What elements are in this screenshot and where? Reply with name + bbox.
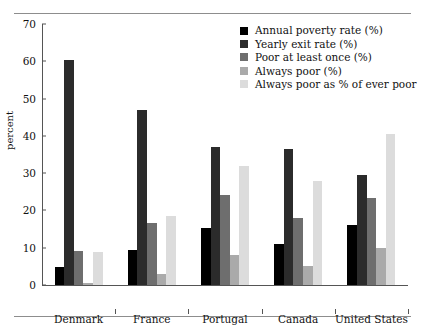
x-tick-label-canada: Canada — [278, 313, 318, 325]
y-tick-label-70: 70 — [2, 19, 42, 30]
bar — [293, 218, 303, 285]
x-tick-label-portugal: Portugal — [202, 313, 247, 325]
bar — [137, 110, 147, 285]
bar — [147, 223, 157, 285]
x-tick-label-denmark: Denmark — [54, 313, 103, 325]
bar — [284, 149, 294, 285]
bar — [74, 251, 84, 285]
bar — [376, 248, 386, 285]
bar — [313, 181, 323, 285]
legend-label: Always poor as % of ever poor — [255, 79, 417, 90]
bar — [157, 274, 167, 285]
x-axis-line — [42, 285, 408, 286]
legend-swatch-icon — [240, 80, 248, 88]
y-tick-label-30: 30 — [2, 168, 42, 179]
bar-group-france — [115, 24, 188, 285]
y-tick-label-10: 10 — [2, 242, 42, 253]
x-tick-mark-1 — [115, 309, 116, 314]
y-tick-label-40: 40 — [2, 131, 42, 142]
bar — [166, 216, 176, 285]
bar — [357, 175, 367, 285]
y-tick-label-20: 20 — [2, 205, 42, 216]
bar — [128, 250, 138, 285]
bar — [367, 198, 377, 285]
legend-swatch-icon — [240, 53, 248, 61]
bar — [239, 166, 249, 285]
x-tick-label-france: France — [133, 313, 170, 325]
legend-label: Always poor (%) — [255, 66, 342, 77]
top-divider-rule — [14, 13, 411, 14]
legend-label: Yearly exit rate (%) — [255, 39, 357, 50]
bar — [303, 266, 313, 285]
legend-item-0: Annual poverty rate (%) — [240, 24, 417, 37]
bar — [274, 244, 284, 285]
y-tick-label-0: 0 — [2, 280, 42, 291]
bar — [347, 225, 357, 285]
x-tick-mark-end — [408, 309, 409, 314]
legend-label: Poor at least once (%) — [255, 52, 372, 63]
x-tick-mark-3 — [262, 309, 263, 314]
legend-item-4: Always poor as % of ever poor — [240, 78, 417, 91]
bar — [93, 252, 103, 285]
legend-swatch-icon — [240, 67, 248, 75]
x-tick-label-united-states: United States — [335, 313, 408, 325]
legend-item-1: Yearly exit rate (%) — [240, 37, 417, 50]
bar — [230, 255, 240, 285]
chart-figure: percent 010203040506070 DenmarkFrancePor… — [0, 0, 425, 331]
legend-label: Annual poverty rate (%) — [255, 25, 383, 36]
bar — [201, 228, 211, 285]
legend-item-2: Poor at least once (%) — [240, 51, 417, 64]
bar — [64, 60, 74, 285]
y-tick-label-60: 60 — [2, 56, 42, 67]
bar — [386, 134, 396, 285]
legend-swatch-icon — [240, 40, 248, 48]
y-tick-label-50: 50 — [2, 93, 42, 104]
bar — [83, 283, 93, 285]
chart-legend: Annual poverty rate (%)Yearly exit rate … — [240, 24, 417, 91]
legend-swatch-icon — [240, 27, 248, 35]
bar — [55, 267, 65, 285]
x-tick-mark-2 — [188, 309, 189, 314]
bar-group-denmark — [42, 24, 115, 285]
bar — [211, 147, 221, 285]
bar — [220, 195, 230, 285]
legend-item-3: Always poor (%) — [240, 64, 417, 77]
